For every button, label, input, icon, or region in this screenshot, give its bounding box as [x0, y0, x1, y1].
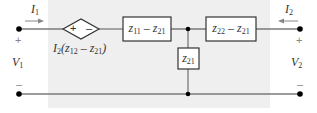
box-label-z22-minus-z21: z22 – z21	[206, 22, 256, 36]
box-label-z11-minus-z21: z11 – z21	[123, 22, 171, 36]
dependent-voltage-source	[63, 19, 99, 39]
current-label-i2: I2	[285, 3, 293, 17]
current-arrow-i1-icon	[25, 19, 44, 24]
right-minus-sign: –	[297, 79, 303, 90]
circuit-wiring	[0, 0, 317, 113]
terminal-node-left-top	[16, 26, 22, 32]
current-arrow-i2-icon	[278, 19, 298, 24]
source-minus-sign: –	[86, 23, 92, 34]
voltage-label-v1: V1	[12, 56, 23, 70]
terminal-node-left-bottom	[16, 91, 22, 97]
dependent-source-label: I2(z12 – z21)	[53, 42, 106, 56]
junction-node-top	[186, 27, 191, 32]
box-label-z21: z21	[178, 52, 199, 66]
voltage-label-v2: V2	[291, 56, 302, 70]
junction-node-bottom	[186, 92, 191, 97]
right-plus-sign: +	[296, 35, 302, 46]
left-plus-sign: +	[15, 35, 21, 46]
terminal-node-right-top	[297, 26, 303, 32]
terminal-node-right-bottom	[297, 91, 303, 97]
current-label-i1: I1	[31, 3, 39, 17]
source-plus-sign: +	[70, 23, 76, 34]
left-minus-sign: –	[16, 79, 22, 90]
